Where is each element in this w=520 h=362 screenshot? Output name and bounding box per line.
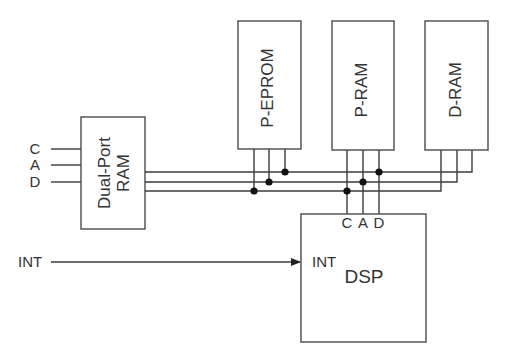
dual-port-ram-block: Dual-Port RAM: [81, 117, 145, 229]
dsp-pin-a: A: [358, 214, 368, 231]
interrupt-input: INT: [18, 253, 300, 270]
bus-line-bottom: [145, 150, 441, 191]
dual-port-ram-label-line1: Dual-Port: [95, 137, 114, 209]
input-label-c: C: [30, 140, 41, 157]
junction-dot: [375, 168, 382, 175]
system-bus: [145, 150, 472, 191]
dsp-int-pin-label: INT: [312, 253, 336, 270]
dsp-pin-c: C: [342, 214, 353, 231]
bus-line-middle: [145, 150, 457, 182]
dsp-memory-block-diagram: C A D Dual-Port RAM P-EPROM P-RAM: [0, 0, 520, 362]
junction-dot: [343, 187, 350, 194]
junction-dot: [265, 178, 272, 185]
dsp-block: C A D INT DSP: [301, 214, 426, 342]
int-input-label: INT: [18, 253, 42, 270]
external-signal-inputs: C A D: [30, 140, 81, 190]
junction-dot: [250, 187, 257, 194]
input-label-d: D: [30, 173, 41, 190]
p-eprom-label: P-EPROM: [258, 48, 277, 127]
junction-dot: [281, 168, 288, 175]
junction-dot: [359, 178, 366, 185]
p-eprom-block: P-EPROM: [238, 21, 301, 195]
dsp-pin-d: D: [374, 214, 385, 231]
bus-line-top: [145, 150, 472, 172]
d-ram-block: D-RAM: [425, 21, 488, 150]
dsp-label: DSP: [344, 266, 383, 287]
p-ram-label: P-RAM: [352, 63, 371, 118]
p-ram-block: P-RAM: [332, 21, 394, 214]
input-label-a: A: [30, 156, 40, 173]
dual-port-ram-label-line2: RAM: [114, 154, 133, 192]
d-ram-label: D-RAM: [446, 62, 465, 118]
